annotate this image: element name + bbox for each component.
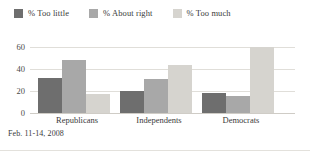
chart-footnote: Feb. 11-14, 2008 <box>8 130 64 138</box>
legend-item-label: % About right <box>103 9 152 18</box>
legend-swatch-about-right <box>89 9 98 18</box>
y-axis-tick-label: 60 <box>17 42 26 51</box>
bar-group: Independents <box>120 41 198 113</box>
legend-item: % About right <box>89 9 152 18</box>
bar <box>120 91 144 113</box>
legend-swatch-too-little <box>14 9 23 18</box>
legend-swatch-too-much <box>173 9 182 18</box>
legend-item-label: % Too little <box>28 9 69 18</box>
bar-group: Republicans <box>38 41 116 113</box>
x-axis-group-label: Democrats <box>202 116 280 125</box>
legend-item: % Too little <box>14 9 69 18</box>
x-axis-group-label: Independents <box>120 116 198 125</box>
bar <box>62 60 86 113</box>
legend-item: % Too much <box>173 9 231 18</box>
plot-area: 0204060RepublicansIndependentsDemocrats <box>30 41 295 113</box>
bar-group: Democrats <box>202 41 280 113</box>
bar <box>86 94 110 113</box>
bar <box>250 47 274 113</box>
gridline: 0 <box>30 113 295 114</box>
bar <box>226 96 250 113</box>
bar <box>144 79 168 113</box>
y-axis-tick-label: 40 <box>17 64 26 73</box>
bar <box>202 93 226 113</box>
bar <box>38 78 62 113</box>
legend-item-label: % Too much <box>187 9 231 18</box>
y-axis-tick-label: 0 <box>21 109 25 118</box>
chart-card: % Too little % About right % Too much 02… <box>0 0 310 151</box>
bar <box>168 65 192 113</box>
chart-legend: % Too little % About right % Too much <box>14 7 304 20</box>
x-axis-group-label: Republicans <box>38 116 116 125</box>
y-axis-tick-label: 20 <box>17 87 26 96</box>
